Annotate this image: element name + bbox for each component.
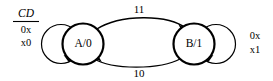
input-header-label: CD [18,7,35,19]
self-loop-b-condition-line-2: x1 [250,44,261,55]
state-b-label: B/1 [186,37,203,49]
state-diagram-svg: CD 0x x0 0x x1 11 [0,0,273,81]
state-a-label: A/0 [74,37,92,49]
transition-b-to-a: 10 [91,54,182,79]
transition-b-to-a-label: 10 [134,67,146,79]
self-loop-a-condition-line-2: x0 [21,37,32,48]
transition-a-to-b: 11 [96,3,190,33]
self-loop-b-condition-line-1: 0x [250,30,261,41]
transition-a-to-b-label: 11 [134,3,145,15]
left-condition-legend: CD 0x x0 [13,7,39,49]
self-loop-a-condition-line-1: 0x [21,24,32,35]
state-node-a[interactable]: A/0 [63,24,104,65]
right-condition-legend: 0x x1 [250,30,261,55]
state-diagram-canvas: CD 0x x0 0x x1 11 [0,0,273,81]
transition-a-to-b-arc [96,18,187,30]
state-node-b[interactable]: B/1 [174,24,215,65]
